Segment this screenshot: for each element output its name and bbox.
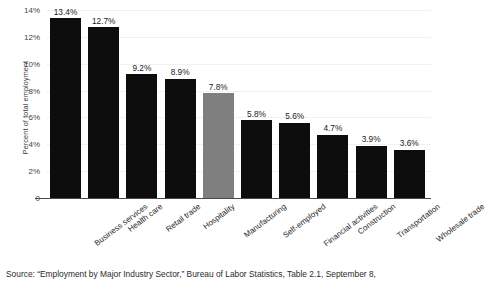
y-axis-tick-label: 14% <box>0 6 40 15</box>
y-axis-tick-label: 8% <box>0 86 40 95</box>
bar-value-label: 3.9% <box>362 134 381 144</box>
bar-rect <box>241 120 272 198</box>
y-axis-tick-label: 6% <box>0 113 40 122</box>
bar-value-label: 13.4% <box>54 7 78 17</box>
y-axis-tick-label: 0 <box>0 194 40 203</box>
plot-area: 02%4%6%8%10%12%14% 13.4%12.7%9.2%8.9%7.8… <box>47 10 431 198</box>
y-axis-tick-label: 4% <box>0 140 40 149</box>
y-axis-tick-label: 2% <box>0 167 40 176</box>
x-axis-label: Transportation <box>395 202 441 240</box>
gridline <box>47 10 431 11</box>
bar-value-label: 7.8% <box>209 82 228 92</box>
x-axis-line <box>35 198 431 199</box>
y-axis-tick-label: 10% <box>0 59 40 68</box>
bar-value-label: 5.6% <box>285 111 304 121</box>
source-note: Source: “Employment by Major Industry Se… <box>6 269 376 279</box>
bar-rect <box>279 123 310 198</box>
bar-rect <box>394 150 425 198</box>
bar-rect <box>50 18 81 198</box>
x-axis-label: Wholesale trade <box>435 202 487 244</box>
bar-value-label: 5.8% <box>247 109 266 119</box>
bar-value-label: 3.6% <box>400 138 419 148</box>
bar-rect <box>165 79 196 199</box>
bar-value-label: 8.9% <box>171 67 190 77</box>
bar-value-label: 4.7% <box>323 123 342 133</box>
x-axis-label: Retail trade <box>164 202 202 234</box>
bar-rect <box>88 27 119 198</box>
bar-value-label: 9.2% <box>132 63 151 73</box>
y-axis-tick-label: 12% <box>0 32 40 41</box>
bar-rect <box>126 74 157 198</box>
x-axis-label: Hospitality <box>202 202 237 231</box>
bar-rect <box>317 135 348 198</box>
bar-value-label: 12.7% <box>92 16 116 26</box>
bar-rect <box>203 93 234 198</box>
bar-rect <box>356 146 387 198</box>
